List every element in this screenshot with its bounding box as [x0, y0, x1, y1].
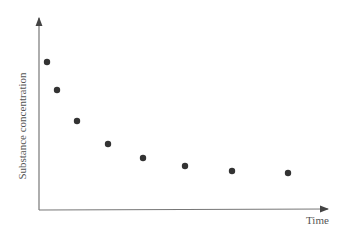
data-point [54, 87, 60, 93]
chart-canvas [0, 0, 342, 237]
x-axis-label: Time [306, 214, 329, 226]
y-axis-label: Substance concentration [16, 72, 28, 179]
data-point [74, 118, 80, 124]
x-axis [39, 209, 328, 210]
data-point [140, 155, 146, 161]
data-points [44, 59, 291, 176]
data-point [182, 163, 188, 169]
data-point [105, 141, 111, 147]
data-point [285, 170, 291, 176]
data-point [229, 168, 235, 174]
data-point [44, 59, 50, 65]
